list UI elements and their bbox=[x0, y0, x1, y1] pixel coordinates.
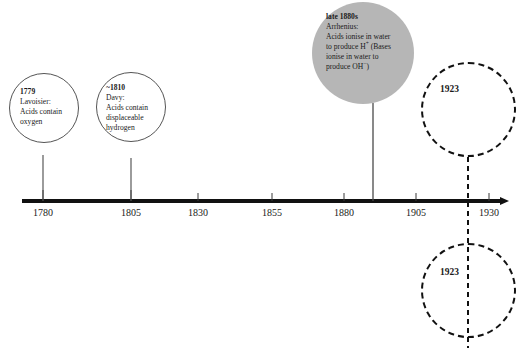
event-text-davy: ~1810 Davy: Acids contain displaceable h… bbox=[106, 83, 148, 133]
event-year-davy: ~1810 bbox=[106, 83, 148, 93]
event-year-1923-lower: 1923 bbox=[440, 267, 459, 277]
event-text-lavoisier: 1779 Lavoisier: Acids contain oxygen bbox=[20, 87, 62, 127]
event-bubble-1923-lower[interactable]: 1923 bbox=[421, 243, 516, 338]
event-year-arrhenius: late 1880s bbox=[326, 12, 391, 22]
axis-label-1830: 1830 bbox=[175, 207, 221, 218]
event-text-arrhenius: late 1880s Arrhenius: Acids ionise in wa… bbox=[326, 12, 391, 72]
event-bubble-davy[interactable]: ~1810 Davy: Acids contain displaceable h… bbox=[96, 72, 166, 142]
event-bubble-arrhenius[interactable]: late 1880s Arrhenius: Acids ionise in wa… bbox=[312, 2, 414, 104]
axis-label-1805: 1805 bbox=[108, 207, 154, 218]
arrhenius-acid-line: to produce H+ (Bases bbox=[326, 42, 391, 52]
event-year-lavoisier: 1779 bbox=[20, 87, 62, 97]
event-bubble-lavoisier[interactable]: 1779 Lavoisier: Acids contain oxygen bbox=[9, 73, 79, 143]
arrhenius-base-line: produce OH−) bbox=[326, 62, 391, 72]
event-year-1923-upper: 1923 bbox=[440, 84, 459, 94]
event-bubble-1923-upper[interactable]: 1923 bbox=[421, 62, 516, 157]
timeline-figure: 1779 Lavoisier: Acids contain oxygen ~18… bbox=[0, 0, 530, 348]
axis-label-1855: 1855 bbox=[249, 207, 295, 218]
axis-label-1880: 1880 bbox=[321, 207, 367, 218]
axis-label-1905: 1905 bbox=[393, 207, 439, 218]
axis-label-1930: 1930 bbox=[466, 207, 512, 218]
axis-label-1780: 1780 bbox=[20, 207, 66, 218]
